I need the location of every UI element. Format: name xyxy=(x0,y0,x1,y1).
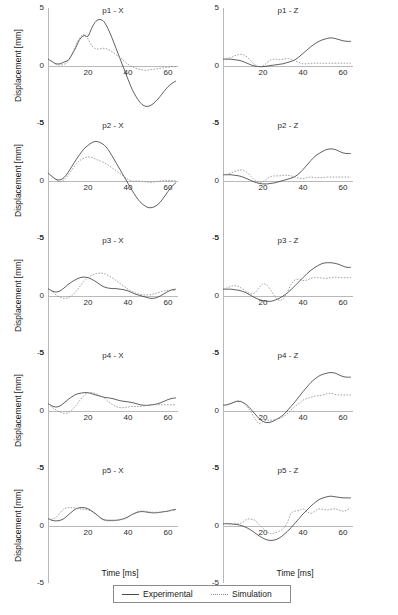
legend-line-dotted-icon xyxy=(211,594,228,595)
simulation-curve xyxy=(223,277,351,300)
simulation-curve xyxy=(48,508,176,521)
simulation-curve xyxy=(223,393,351,424)
simulation-curve xyxy=(48,34,176,70)
y-tick-label: 0 xyxy=(24,406,44,415)
plot-panel-p4-x: 50-5204060p4 - X xyxy=(48,353,178,468)
curve-layer xyxy=(223,8,353,123)
y-tick-label: 5 xyxy=(199,463,219,472)
experimental-curve xyxy=(48,393,176,407)
y-tick-label: 0 xyxy=(24,521,44,530)
simulation-curve xyxy=(48,157,176,182)
y-tick-label: 0 xyxy=(199,521,219,530)
y-tick-label: 0 xyxy=(24,176,44,185)
plot-panel-p2-x: 50-5204060p2 - X xyxy=(48,123,178,238)
simulation-curve xyxy=(223,54,351,66)
experimental-curve xyxy=(48,19,176,106)
y-tick-label: 0 xyxy=(199,406,219,415)
plot-panel-p3-z: 50-5204060p3 - Z xyxy=(223,238,353,353)
curve-layer xyxy=(48,238,178,353)
y-axis-title-row3: Displacement [mm] xyxy=(13,259,23,332)
simulation-curve xyxy=(48,392,176,413)
y-tick-label: 0 xyxy=(199,176,219,185)
experimental-curve xyxy=(223,149,351,184)
experimental-curve xyxy=(223,263,351,302)
plot-panel-p3-x: 50-5204060p3 - X xyxy=(48,238,178,353)
experimental-curve xyxy=(48,277,176,298)
plot-panel-p1-z: 50-5204060p1 - Z xyxy=(223,8,353,123)
experimental-curve xyxy=(223,373,351,423)
curve-layer xyxy=(223,238,353,353)
plot-panel-p5-z: 50-5204060p5 - Z xyxy=(223,468,353,583)
curve-layer xyxy=(48,123,178,238)
legend-item-simulation: Simulation xyxy=(211,586,272,602)
plot-panel-p1-x: 50-5204060p1 - X xyxy=(48,8,178,123)
y-tick-label: 0 xyxy=(24,61,44,70)
y-axis-title-row4: Displacement [mm] xyxy=(13,374,23,447)
y-tick-label: 5 xyxy=(24,118,44,127)
figure-panel-grid: Displacement [mm] Displacement [mm] Disp… xyxy=(0,0,398,615)
legend-item-experimental: Experimental xyxy=(122,586,193,602)
curve-layer xyxy=(48,353,178,468)
y-tick-label: 5 xyxy=(199,118,219,127)
simulation-curve xyxy=(223,508,351,534)
legend-line-solid-icon xyxy=(122,594,139,595)
plot-panel-p5-x: 50-5204060p5 - X xyxy=(48,468,178,583)
y-tick-label: 5 xyxy=(24,3,44,12)
y-tick-label: 5 xyxy=(199,348,219,357)
curve-layer xyxy=(223,468,353,583)
y-tick-label: 5 xyxy=(24,463,44,472)
y-axis-title-row5: Displacement [mm] xyxy=(13,489,23,562)
experimental-curve xyxy=(48,508,176,521)
curve-layer xyxy=(223,123,353,238)
y-tick-label: 5 xyxy=(199,3,219,12)
y-tick-label: 0 xyxy=(24,291,44,300)
plot-panel-p2-z: 50-5204060p2 - Z xyxy=(223,123,353,238)
simulation-curve xyxy=(223,170,351,182)
y-axis-title-row2: Displacement [mm] xyxy=(13,144,23,217)
curve-layer xyxy=(48,468,178,583)
experimental-curve xyxy=(48,141,176,207)
y-tick-label: 0 xyxy=(199,61,219,70)
y-tick-label: -5 xyxy=(24,578,44,587)
legend-label-simulation: Simulation xyxy=(232,589,272,599)
y-tick-label: 5 xyxy=(24,348,44,357)
curve-layer xyxy=(223,353,353,468)
curve-layer xyxy=(48,8,178,123)
y-tick-label: 5 xyxy=(24,233,44,242)
y-axis-title-row1: Displacement [mm] xyxy=(13,29,23,102)
legend-label-experimental: Experimental xyxy=(143,589,193,599)
y-tick-label: 0 xyxy=(199,291,219,300)
y-tick-label: 5 xyxy=(199,233,219,242)
experimental-curve xyxy=(223,38,351,67)
experimental-curve xyxy=(223,496,351,540)
plot-panel-p4-z: 50-5204060p4 - Z xyxy=(223,353,353,468)
legend: Experimental Simulation xyxy=(113,585,291,603)
